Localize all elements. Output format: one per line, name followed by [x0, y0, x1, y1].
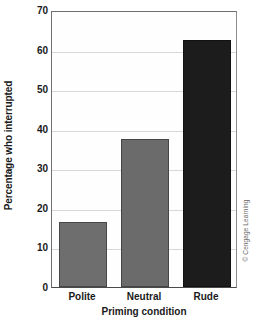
y-axis-tick-label: 0 — [18, 283, 48, 293]
y-axis-tick-label: 70 — [18, 6, 48, 16]
y-axis-tick-label: 30 — [18, 164, 48, 174]
x-axis-title: Priming condition — [51, 307, 237, 317]
x-axis-tick-label: Rude — [175, 292, 237, 302]
bar — [59, 222, 108, 287]
y-axis-tick-label: 40 — [18, 125, 48, 135]
x-axis-tick-labels: PoliteNeutralRude — [51, 292, 237, 306]
y-axis-tick-label: 50 — [18, 85, 48, 95]
copyright-credit-text: © Cengage Learning — [243, 199, 250, 261]
copyright-credit: © Cengage Learning — [240, 170, 252, 290]
bar — [121, 139, 170, 287]
y-axis-tick-label: 20 — [18, 204, 48, 214]
y-axis-title: Percentage who interrupted — [0, 0, 18, 290]
plot-area — [51, 11, 237, 288]
y-axis-title-text: Percentage who interrupted — [4, 80, 15, 210]
y-axis-tick-labels: 010203040506070 — [18, 0, 48, 323]
bar — [183, 40, 232, 287]
y-axis-tick-label: 10 — [18, 243, 48, 253]
x-axis-tick-label: Polite — [51, 292, 113, 302]
bar-chart-figure: Percentage who interrupted 0102030405060… — [0, 0, 254, 323]
y-axis-tick-label: 60 — [18, 46, 48, 56]
x-axis-tick-label: Neutral — [113, 292, 175, 302]
